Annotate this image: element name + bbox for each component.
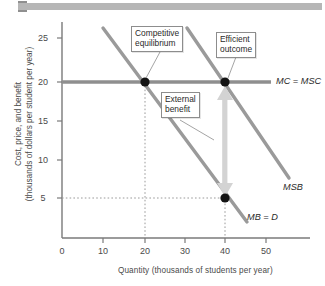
curve-label-msb: MSB [283,182,303,192]
annotation-competitive-equilibrium: Competitive equilibrium [131,26,183,52]
y-axis-title-line2: (thousands of dollars per student per ye… [24,29,35,219]
x-tick-label-20: 20 [136,246,154,256]
leader-efficient-outcome [228,57,236,78]
efficient-outcome-point [220,77,229,86]
external-benefit-arrow [217,86,233,197]
x-tick-label-40: 40 [216,246,234,256]
y-axis-title-line1: Cost, price, and benefit [13,29,24,219]
x-tick-label-0: 0 [53,246,71,256]
x-tick-label-30: 30 [176,246,194,256]
figure-canvas: 25 20 15 10 5 0 10 20 30 40 50 Cost, pri… [0,0,325,286]
curve-label-mc-msc: MC = MSC [276,76,321,86]
y-axis-title: Cost, price, and benefit (thousands of d… [13,29,37,219]
annotation-efficient-outcome: Efficient outcome [216,32,256,58]
marginal-benefit-point [220,193,229,202]
annotation-competitive-equilibrium-line2: equilibrium [135,39,179,49]
x-tick-label-50: 50 [257,246,275,256]
annotation-efficient-outcome-line2: outcome [220,45,252,55]
annotation-external-benefit-line2: benefit [165,105,196,115]
x-axis-title: Quantity (thousands of students per year… [118,266,273,275]
annotation-external-benefit: External benefit [161,92,200,118]
competitive-equilibrium-point [140,77,149,86]
x-tick-label-10: 10 [94,246,112,256]
curve-label-mb-d: MB = D [247,212,278,222]
leader-competitive-equilibrium [146,52,160,78]
